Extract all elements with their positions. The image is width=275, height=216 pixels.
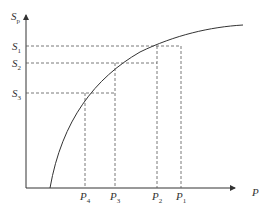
y-axis-label: Sp — [11, 10, 21, 25]
label-p1: P1 — [175, 190, 187, 205]
label-s3: S3 — [12, 87, 22, 102]
label-s2: S2 — [12, 57, 22, 72]
label-p2: P2 — [151, 190, 163, 205]
x-axis-label: P — [251, 186, 259, 198]
diagram-canvas: Sp S1 S2 S3 P4 P3 P2 P1 P — [0, 0, 275, 216]
supply-curve — [50, 25, 243, 188]
label-p4: P4 — [79, 190, 91, 205]
label-p3: P3 — [109, 190, 121, 205]
label-s1: S1 — [12, 40, 22, 55]
